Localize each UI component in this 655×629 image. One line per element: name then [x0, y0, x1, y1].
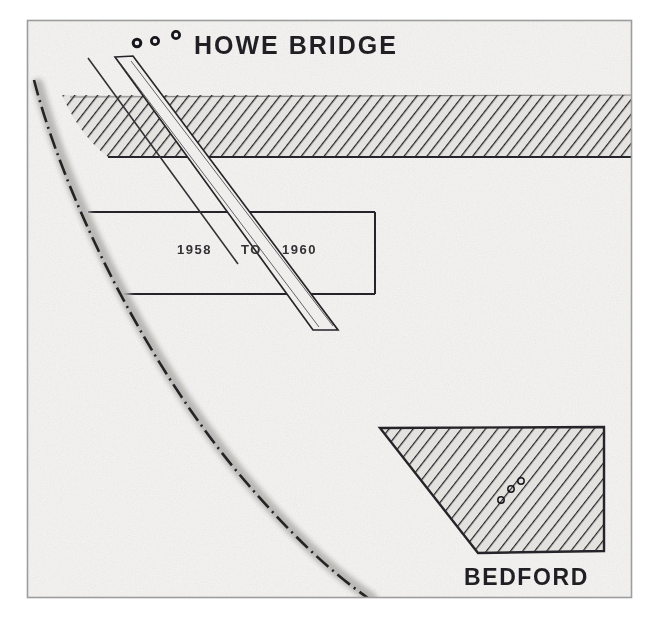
grain-overlay [27, 20, 632, 598]
map-canvas: HOWE BRIDGE BEDFORD 1958 TO 1960 [0, 0, 655, 629]
map-figure: HOWE BRIDGE BEDFORD 1958 TO 1960 [0, 0, 655, 629]
